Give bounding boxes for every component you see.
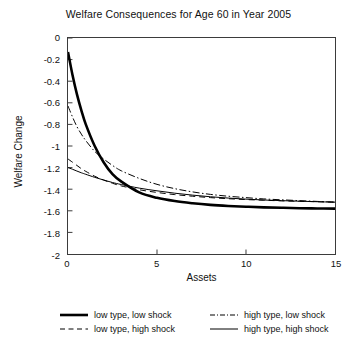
legend-column-right: high type, low shock high type, high sho… [209, 308, 329, 336]
legend-item-high-type-high-shock: high type, high shock [209, 322, 329, 336]
x-axis-tick-label: 10 [231, 258, 261, 269]
y-axis-tick-label: -0.2 [14, 53, 60, 64]
line-style-solid-thick-icon [59, 309, 89, 321]
legend-label: high type, low shock [244, 309, 325, 321]
y-axis-tick-label: -0.4 [14, 75, 60, 86]
y-axis-tick-label: -1.8 [14, 228, 60, 239]
x-axis-label: Assets [67, 272, 336, 283]
legend-label: low type, high shock [94, 323, 175, 335]
x-axis-tick-label: 5 [142, 258, 172, 269]
legend: low type, low shock low type, high shock… [57, 308, 347, 338]
x-axis-tick-label: 0 [52, 258, 82, 269]
legend-label: high type, high shock [244, 323, 329, 335]
line-style-dash-dot-icon [209, 309, 239, 321]
series-line [68, 106, 335, 202]
line-style-solid-thin-icon [209, 323, 239, 335]
figure: Welfare Consequences for Age 60 in Year … [0, 0, 357, 344]
x-axis-tick-label: 15 [321, 258, 351, 269]
legend-item-high-type-low-shock: high type, low shock [209, 308, 329, 322]
legend-column-left: low type, low shock low type, high shock [59, 308, 175, 336]
legend-label: low type, low shock [94, 309, 172, 321]
y-axis-label: Welfare Change [13, 92, 24, 212]
plot-area [67, 37, 336, 255]
series-line [68, 52, 335, 209]
line-style-dashed-icon [59, 323, 89, 335]
legend-item-low-type-low-shock: low type, low shock [59, 308, 175, 322]
legend-item-low-type-high-shock: low type, high shock [59, 322, 175, 336]
page-title: Welfare Consequences for Age 60 in Year … [0, 8, 357, 20]
y-axis-tick-label: 0 [14, 32, 60, 43]
y-axis-tick-label: -2 [14, 250, 60, 261]
plot-lines [68, 38, 335, 254]
